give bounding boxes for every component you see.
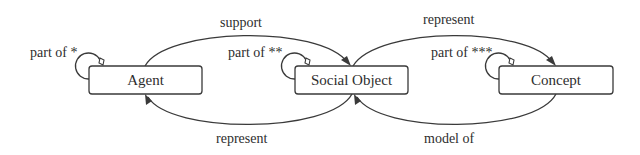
node-concept[interactable]: Concept (499, 66, 613, 94)
arrowhead-icon (145, 94, 152, 105)
arrowhead-icon (354, 94, 361, 105)
aggregation-diamond-icon (509, 58, 514, 65)
node-label-agent: Agent (127, 72, 164, 88)
edge-model-of: model of (354, 94, 556, 146)
edge-represent-bottom: represent (145, 94, 352, 146)
edge-label-support: support (220, 15, 262, 30)
node-label-social-object: Social Object (311, 72, 393, 88)
node-agent[interactable]: Agent (89, 66, 202, 94)
aggregation-diamond-icon (305, 58, 310, 65)
edge-label-represent-bottom: represent (216, 131, 267, 146)
ontology-diagram: support represent represent model of par… (0, 0, 640, 155)
self-loop-label-concept: part of *** (431, 45, 492, 60)
self-loop-label-social-object: part of ** (228, 45, 282, 60)
node-label-concept: Concept (531, 72, 582, 88)
edge-label-model-of: model of (424, 131, 474, 146)
edge-label-represent-top: represent (423, 12, 474, 27)
aggregation-diamond-icon (99, 58, 104, 65)
self-loop-label-agent: part of * (30, 45, 77, 60)
node-social-object[interactable]: Social Object (295, 66, 408, 94)
